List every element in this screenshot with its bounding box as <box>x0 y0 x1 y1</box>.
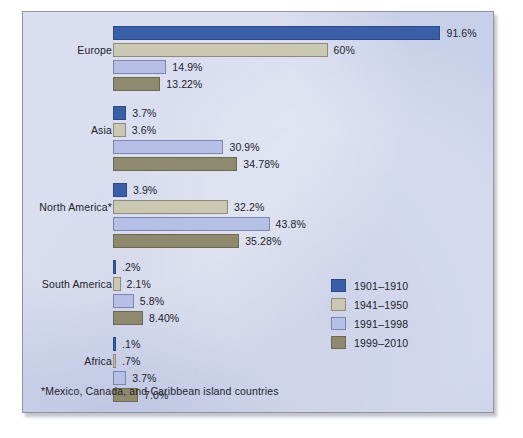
bar-value-label: .7% <box>122 355 140 367</box>
bar-value-label: 91.6% <box>446 27 476 39</box>
bar-value-label: 60% <box>334 44 355 56</box>
bar-value-label: 8.40% <box>149 312 179 324</box>
plot-area: Europe91.6%60%14.9%13.22%Asia3.7%3.6%30.… <box>23 12 493 412</box>
bar-4-0 <box>113 337 116 351</box>
bar-0-1 <box>113 43 328 57</box>
bar-3-0 <box>113 260 116 274</box>
category-label: Asia <box>0 124 112 136</box>
legend-label: 1901–1910 <box>354 280 408 292</box>
bar-value-label: 35.28% <box>245 235 281 247</box>
bar-4-1 <box>113 354 116 368</box>
bar-2-0 <box>113 183 127 197</box>
legend-label: 1941–1950 <box>354 299 408 311</box>
legend-label: 1991–1998 <box>354 318 408 330</box>
bar-value-label: 32.2% <box>234 201 264 213</box>
legend-item: 1999–2010 <box>331 334 408 351</box>
category-label: Europe <box>0 44 112 56</box>
bar-value-label: 34.78% <box>243 158 279 170</box>
legend-item: 1901–1910 <box>331 277 408 294</box>
chart-screenshot: Europe91.6%60%14.9%13.22%Asia3.7%3.6%30.… <box>0 0 523 438</box>
bar-2-3 <box>113 234 239 248</box>
category-label: North America* <box>0 201 112 213</box>
bar-value-label: 30.9% <box>229 141 259 153</box>
bar-value-label: 3.7% <box>132 372 156 384</box>
bar-1-1 <box>113 123 126 137</box>
chart-legend: 1901–19101941–19501991–19981999–2010 <box>331 277 408 353</box>
bar-value-label: .2% <box>122 261 140 273</box>
legend-swatch-icon <box>331 317 346 330</box>
bar-1-0 <box>113 106 126 120</box>
bar-value-label: 5.8% <box>140 295 164 307</box>
bar-3-3 <box>113 311 143 325</box>
bar-0-0 <box>113 26 440 40</box>
bar-value-label: 13.22% <box>166 78 202 90</box>
legend-swatch-icon <box>331 279 346 292</box>
category-label: South America <box>0 278 112 290</box>
bar-3-2 <box>113 294 134 308</box>
legend-item: 1941–1950 <box>331 296 408 313</box>
bar-value-label: .1% <box>122 338 140 350</box>
bar-0-3 <box>113 77 160 91</box>
bar-4-2 <box>113 371 126 385</box>
bar-value-label: 43.8% <box>276 218 306 230</box>
bar-value-label: 3.6% <box>132 124 156 136</box>
chart-footnote: *Mexico, Canada, and Caribbean island co… <box>41 385 279 397</box>
bar-value-label: 14.9% <box>172 61 202 73</box>
bar-value-label: 3.9% <box>133 184 157 196</box>
bar-1-2 <box>113 140 223 154</box>
bar-value-label: 3.7% <box>132 107 156 119</box>
bar-3-1 <box>113 277 121 291</box>
bar-value-label: 2.1% <box>127 278 151 290</box>
bar-2-2 <box>113 217 270 231</box>
bar-2-1 <box>113 200 228 214</box>
legend-swatch-icon <box>331 298 346 311</box>
legend-item: 1991–1998 <box>331 315 408 332</box>
category-label: Africa <box>0 355 112 367</box>
legend-label: 1999–2010 <box>354 337 408 349</box>
bar-1-3 <box>113 157 237 171</box>
legend-swatch-icon <box>331 336 346 349</box>
bar-0-2 <box>113 60 166 74</box>
chart-panel: Europe91.6%60%14.9%13.22%Asia3.7%3.6%30.… <box>22 11 494 413</box>
